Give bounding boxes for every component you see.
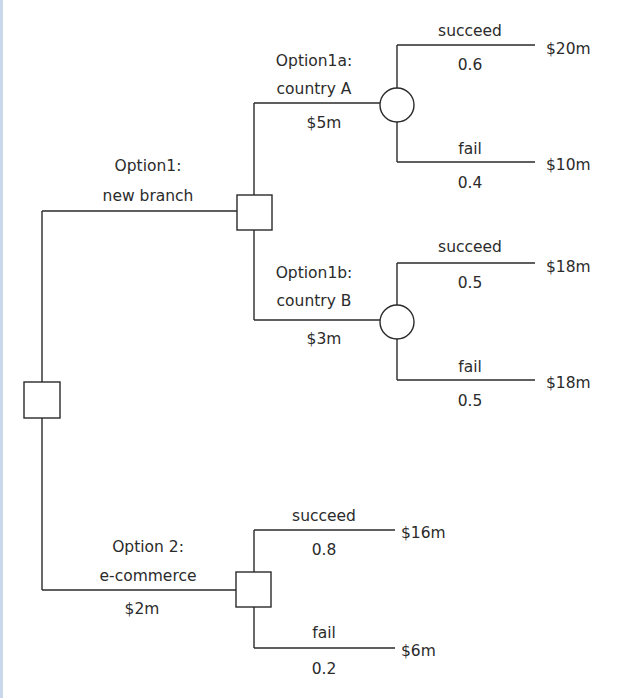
option1b-fail-label: fail [458,358,482,376]
option1b-cost: $3m [307,330,342,348]
option1a-fail-payoff: $10m [546,156,591,174]
option1b-title: Option1b: [276,264,353,282]
option1a-cost: $5m [307,114,342,132]
option1a-chance-node [380,88,414,122]
option1b-succeed-label: succeed [438,238,502,256]
option2-fail-probability: 0.2 [312,660,337,678]
option2-fail-payoff: $6m [401,642,436,660]
option1b-fail-probability: 0.5 [458,392,483,410]
option2-fail-label: fail [312,624,336,642]
option1a-succeed-probability: 0.6 [458,56,483,74]
option1a-succeed-payoff: $20m [546,40,591,58]
option1a-fail-probability: 0.4 [458,174,483,192]
option2-title: Option 2: [112,538,184,556]
option2-cost: $2m [125,600,160,618]
option1a-title: Option1a: [276,52,352,70]
option1b-succeed-payoff: $18m [546,258,591,276]
option1a-subtitle: country A [277,80,352,98]
option2-subtitle: e-commerce [100,567,197,585]
option1b-fail-payoff: $18m [546,374,591,392]
option2-succeed-label: succeed [292,507,356,525]
decision-tree-diagram: Option1: new branch Option1a: country A … [0,0,622,698]
option1b-subtitle: country B [277,292,352,310]
option1-subtitle: new branch [103,187,194,205]
option1b-chance-node [380,305,414,339]
option2-succeed-probability: 0.8 [312,541,337,559]
option1a-succeed-label: succeed [438,22,502,40]
option1-title: Option1: [115,157,182,175]
root-decision-node [24,382,60,418]
option2-decision-node [236,572,271,607]
option1a-fail-label: fail [458,140,482,158]
option1b-succeed-probability: 0.5 [458,274,483,292]
option2-succeed-payoff: $16m [401,524,446,542]
option1-decision-node [237,195,272,230]
